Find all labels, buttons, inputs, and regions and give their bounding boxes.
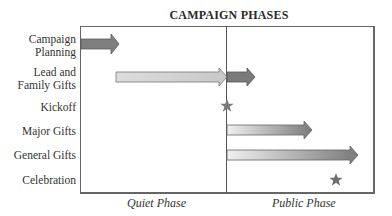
campaign-planning-arrow xyxy=(81,34,119,54)
celebration-star-icon xyxy=(329,173,342,186)
kickoff-star-icon xyxy=(220,99,233,112)
lead-family-gifts-quiet-arrow xyxy=(116,68,227,86)
major-gifts-arrow xyxy=(227,121,312,139)
lead-family-gifts-public-arrow xyxy=(227,68,255,86)
arrows-layer xyxy=(0,0,392,216)
general-gifts-arrow xyxy=(227,146,358,164)
